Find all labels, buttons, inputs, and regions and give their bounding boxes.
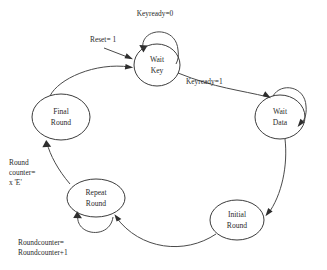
edge-label-round-counter-xe: Round counter= x 'E' — [9, 158, 35, 187]
edge-label-roundcounter-increment: Roundcounter= Roundcounter+1 — [18, 238, 68, 257]
reset-arrow-head — [125, 53, 134, 59]
edge-label-round-counter-xe-line2: counter= — [9, 168, 35, 177]
state-node-initial-round[interactable]: Initial Round — [210, 200, 264, 240]
wait-data-label-line1: Wait — [273, 107, 288, 116]
wait-key-label-line2: Key — [151, 66, 164, 75]
edge-repeat-round-self-loop — [73, 211, 113, 232]
state-node-wait-data[interactable]: Wait Data — [255, 95, 305, 139]
edge-label-keyready-0: Keyready=0 — [137, 9, 174, 18]
edge-label-roundcounter-increment-line2: Roundcounter+1 — [18, 248, 68, 257]
state-node-wait-key[interactable]: Wait Key — [134, 44, 180, 86]
initial-round-to-repeat-round-path — [116, 217, 216, 247]
edge-initial-round-to-repeat-round — [114, 214, 216, 246]
edge-repeat-round-to-final-round — [42, 140, 70, 184]
repeat-round-to-final-round-path — [47, 143, 70, 184]
final-round-label-line2: Round — [51, 118, 71, 127]
repeat-round-to-final-round-arrow-head — [42, 140, 51, 147]
wait-key-label-line1: Wait — [150, 55, 165, 64]
initial-round-to-repeat-round-arrow-head — [114, 214, 121, 221]
edge-label-round-counter-xe-line3: x 'E' — [9, 178, 22, 187]
edge-reset-to-wait-key — [104, 48, 133, 59]
initial-round-label-line1: Initial — [228, 210, 246, 219]
final-round-to-wait-key-path — [50, 66, 130, 96]
edge-final-round-to-wait-key — [50, 64, 133, 96]
edge-label-roundcounter-increment-line1: Roundcounter= — [18, 238, 64, 247]
repeat-round-label-line1: Repeat — [85, 188, 107, 197]
edge-label-round-counter-xe-line1: Round — [9, 158, 29, 167]
final-round-to-wait-key-arrow-head — [125, 64, 133, 69]
edge-label-keyready-1: Keyready=1 — [186, 77, 223, 86]
edge-wait-data-to-initial-round — [265, 139, 285, 216]
initial-round-label-line2: Round — [227, 221, 247, 230]
final-round-label-line1: Final — [53, 107, 69, 116]
state-diagram: Wait Key Wait Data Initial Round Repeat … — [0, 0, 327, 270]
fsm-canvas: Wait Key Wait Data Initial Round Repeat … — [0, 0, 327, 270]
wait-data-to-initial-round-path — [268, 139, 286, 214]
state-node-repeat-round[interactable]: Repeat Round — [67, 179, 125, 217]
edge-label-reset: Reset= 1 — [90, 35, 116, 44]
wait-data-label-line2: Data — [273, 118, 288, 127]
state-node-final-round[interactable]: Final Round — [32, 94, 90, 140]
repeat-round-label-line2: Round — [86, 199, 106, 208]
